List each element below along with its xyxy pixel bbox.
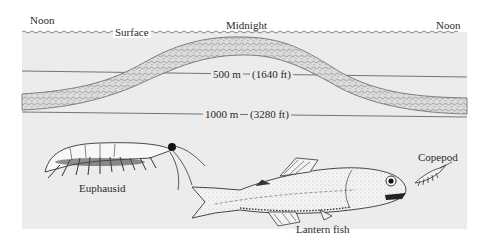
time-label-midnight: Midnight: [226, 19, 267, 31]
depth-1000m-meters: 1000 m: [203, 108, 240, 120]
time-label-noon-left: Noon: [30, 14, 54, 26]
organism-label-euphausid: Euphausid: [79, 182, 125, 194]
organism-label-lantern-fish: Lantern fish: [296, 223, 349, 235]
diagram-graphics: [0, 0, 486, 242]
depth-500m-meters: 500 m: [211, 68, 243, 80]
depth-500m-feet: (1640 ft): [250, 68, 293, 80]
time-label-noon-right: Noon: [436, 19, 460, 31]
depth-1000m-feet: (3280 ft): [248, 108, 291, 120]
surface-label: Surface: [113, 26, 151, 38]
organism-label-copepod: Copepod: [418, 151, 458, 163]
migration-diagram: Noon Midnight Noon Surface 500 m (1640 f…: [0, 0, 486, 242]
